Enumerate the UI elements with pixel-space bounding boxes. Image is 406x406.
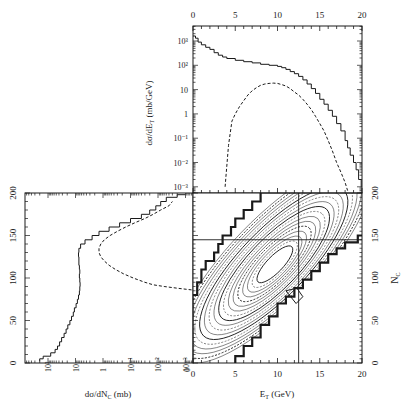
left-panel-nc-distribution: 05010015020010²10110⁻¹10⁻²10⁻³0 bbox=[8, 186, 193, 372]
left-solid-curve bbox=[40, 195, 186, 362]
top-dashed-curve bbox=[225, 83, 348, 191]
left-x-tick-label: 1 bbox=[99, 368, 108, 372]
main-x-tick-label: 20 bbox=[358, 369, 368, 379]
main-x-tick-label: 15 bbox=[315, 369, 325, 379]
figure: 0510152010³10²10110⁻¹10⁻²10⁻³ 0501001502… bbox=[0, 0, 406, 406]
top-solid-curve bbox=[193, 36, 361, 187]
top-x-tick-label: 0 bbox=[191, 10, 196, 20]
left-y-tick-label: 0 bbox=[8, 360, 18, 365]
top-y-tick-label: 10² bbox=[178, 61, 189, 70]
main-x-axis-label: ET (GeV) bbox=[260, 389, 294, 400]
main-panel-contour-plot: 05101520050100150200 bbox=[149, 136, 397, 389]
top-y-tick-label: 10³ bbox=[178, 37, 189, 46]
top-y-tick-label: 10⁻³ bbox=[173, 183, 188, 192]
main-x-tick-label: 10 bbox=[273, 369, 283, 379]
top-x-tick-label: 5 bbox=[233, 10, 238, 20]
main-x-tick-label: 0 bbox=[191, 369, 196, 379]
left-y-tick-label: 150 bbox=[8, 228, 18, 242]
top-y-tick-label: 10⁻² bbox=[173, 159, 188, 168]
main-y-tick-label: 200 bbox=[370, 186, 380, 200]
left-frame bbox=[25, 193, 193, 363]
left-x-tick-label: 10² bbox=[44, 361, 53, 372]
top-y-tick-label: 1 bbox=[184, 110, 188, 119]
top-panel-et-distribution: 0510152010³10²10110⁻¹10⁻²10⁻³ bbox=[173, 10, 367, 193]
main-y-tick-label: 0 bbox=[370, 360, 380, 365]
left-x-tick-label: 10 bbox=[72, 364, 81, 372]
main-y-tick-label: 50 bbox=[370, 316, 380, 326]
top-x-tick-label: 10 bbox=[273, 10, 283, 20]
contour-lines bbox=[149, 136, 397, 389]
left-x-axis-label: dσ/dNC (mb) bbox=[85, 389, 132, 400]
left-y-tick-label: 50 bbox=[8, 316, 18, 326]
left-x-tick-label: 10⁻² bbox=[154, 357, 163, 372]
top-y-tick-label: 10⁻¹ bbox=[173, 134, 188, 143]
top-x-tick-label: 15 bbox=[315, 10, 325, 20]
left-y-tick-label: 100 bbox=[8, 271, 18, 285]
top-y-axis-label: dσ/dET (mb/GeV) bbox=[144, 81, 155, 146]
main-y-tick-label: 150 bbox=[370, 228, 380, 242]
main-y-tick-label: 100 bbox=[370, 271, 380, 285]
main-x-tick-label: 5 bbox=[233, 369, 238, 379]
main-y-axis-label: NC bbox=[389, 272, 401, 283]
top-y-tick-label: 10 bbox=[180, 86, 188, 95]
left-x-tick-label: 10⁻¹ bbox=[127, 357, 136, 372]
left-y-tick-label: 200 bbox=[8, 186, 18, 200]
top-x-tick-label: 20 bbox=[358, 10, 368, 20]
top-frame bbox=[193, 26, 362, 193]
